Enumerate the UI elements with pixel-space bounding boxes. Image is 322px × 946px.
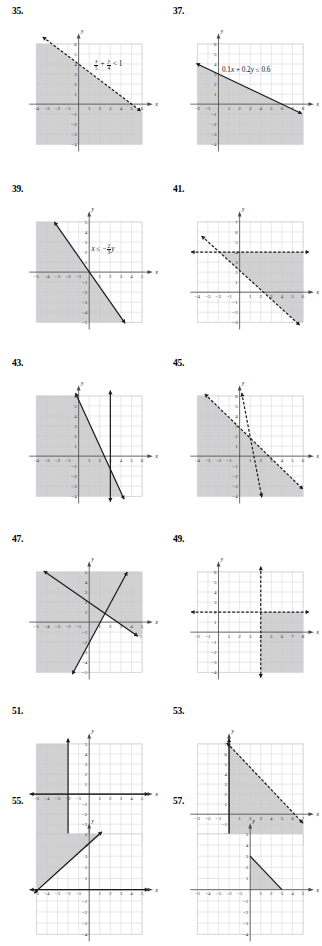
svg-text:−2: −2 [71,122,77,127]
svg-text:−3: −3 [82,921,88,926]
exercise-number-35: 35. [12,6,23,16]
svg-text:−1: −1 [71,464,77,469]
exercise-number-41: 41. [173,184,184,194]
inequality-label-35: x5 + y4 < 1 [94,59,122,71]
svg-text:−1: −1 [82,280,88,285]
exercise-number-55: 55. [12,796,23,806]
svg-text:−1: −1 [211,640,217,645]
exercise-panel-43: 43.−4−3−2−1123456−4−3−2−1123456xy [0,352,161,528]
exercise-panel-45: 45.−4−3−2−1123456−4−3−2−1123456xy [161,352,322,528]
svg-text:y: y [241,380,245,386]
exercise-number-37: 37. [173,6,184,16]
inequality-label-39: x ≤ −23y [92,244,115,256]
svg-text:6: 6 [141,106,144,111]
svg-text:−4: −4 [82,932,88,937]
svg-text:−3: −3 [55,891,61,896]
svg-text:−1: −1 [76,274,82,279]
exercise-number-53: 53. [173,706,184,716]
exercise-panel-39: 39.−5−4−3−2−112345−5−4−3−2−112345xyx ≤ −… [0,178,161,352]
svg-text:−3: −3 [55,624,61,629]
svg-text:−4: −4 [34,458,40,463]
svg-text:−4: −4 [243,932,249,937]
svg-text:−3: −3 [205,294,211,299]
svg-text:5: 5 [302,891,305,896]
svg-text:−3: −3 [205,458,211,463]
svg-text:−1: −1 [82,899,88,904]
graph-47: −5−4−3−2−112345−5−4−3−2−112345xy [22,556,160,690]
svg-text:−3: −3 [44,458,50,463]
svg-text:−4: −4 [34,106,40,111]
graph-39: −5−4−3−2−112345−5−4−3−2−112345xy [22,206,160,340]
svg-text:−2: −2 [71,474,77,479]
exercise-panel-37: 37.−2−112345678−4−3−2−1123456xy0.1x + 0.… [161,0,322,178]
svg-text:−2: −2 [82,290,88,295]
svg-text:−2: −2 [216,458,222,463]
svg-text:x: x [316,101,320,107]
svg-text:−5: −5 [82,320,88,325]
exercise-number-51: 51. [12,706,23,716]
svg-text:−4: −4 [195,458,201,463]
exercise-number-39: 39. [12,184,23,194]
exercise-number-57: 57. [173,796,184,806]
svg-text:−4: −4 [232,494,238,499]
svg-text:−1: −1 [205,106,211,111]
svg-text:−1: −1 [232,300,238,305]
exercise-panel-41: 41.−4−3−2−1123456−3−2−11234567xy [161,178,322,352]
svg-text:−5: −5 [195,891,201,896]
svg-text:−2: −2 [232,474,238,479]
svg-text:y: y [91,556,95,562]
svg-text:x: x [316,887,320,893]
svg-text:−3: −3 [216,891,222,896]
svg-text:−1: −1 [65,458,71,463]
svg-text:−3: −3 [211,660,217,665]
svg-text:−4: −4 [211,142,217,147]
svg-text:−4: −4 [82,310,88,315]
svg-text:−5: −5 [34,624,40,629]
svg-text:−1: −1 [71,112,77,117]
svg-text:−4: −4 [82,660,88,665]
svg-text:−3: −3 [71,484,77,489]
exercise-panel-53: 53.−3−2−11234567−3−2−11234567xy [161,700,322,790]
svg-text:5: 5 [141,891,144,896]
svg-text:−4: −4 [195,294,201,299]
svg-text:−1: −1 [205,634,211,639]
svg-text:−1: −1 [226,458,232,463]
svg-text:−4: −4 [71,142,77,147]
svg-text:x: x [155,619,159,625]
svg-text:−3: −3 [232,320,238,325]
exercise-panel-55: 55.−5−4−3−2−112345−4−3−2−112345xy [0,790,161,924]
svg-text:y: y [220,28,224,34]
svg-text:−2: −2 [65,891,71,896]
svg-text:y: y [80,28,84,34]
svg-text:−5: −5 [82,670,88,675]
exercise-panel-57: 57.−5−4−3−2−112345−4−3−2−112345xy [161,790,322,924]
graph-45: −4−3−2−1123456−4−3−2−1123456xy [183,380,321,514]
svg-text:5: 5 [141,624,144,629]
svg-text:y: y [252,818,256,824]
exercise-panel-51: 51.−5−4−3−2−112345−5−4−3−2−112345xy [0,700,161,790]
graph-41: −4−3−2−1123456−3−2−11234567xy [183,206,321,340]
svg-text:−2: −2 [55,458,61,463]
exercise-number-49: 49. [173,534,184,544]
svg-text:−1: −1 [82,630,88,635]
svg-text:−2: −2 [55,106,61,111]
svg-text:−1: −1 [211,112,217,117]
svg-text:y: y [91,728,95,734]
svg-text:−1: −1 [76,624,82,629]
svg-text:−2: −2 [65,274,71,279]
exercise-panel-49: 49.−2−112345678−4−3−2−1123456xy [161,528,322,700]
svg-text:6: 6 [302,294,305,299]
svg-text:−1: −1 [243,899,249,904]
svg-text:x: x [316,289,320,295]
svg-text:x: x [316,629,320,635]
exercise-panel-35: 35.−4−3−2−1123456−4−3−2−1123456xyx5 + y4… [0,0,161,178]
svg-text:8: 8 [302,634,305,639]
svg-text:8: 8 [302,106,305,111]
svg-text:−2: −2 [216,294,222,299]
svg-text:−1: −1 [65,106,71,111]
svg-text:−4: −4 [44,274,50,279]
svg-text:x: x [155,887,159,893]
svg-text:−3: −3 [44,106,50,111]
exercise-number-43: 43. [12,358,23,368]
svg-text:−4: −4 [44,624,50,629]
